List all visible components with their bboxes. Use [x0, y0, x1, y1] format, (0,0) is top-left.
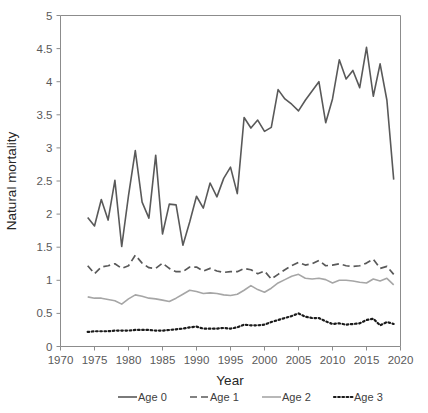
- y-tick-label: 4: [46, 76, 53, 88]
- y-tick-label: 0.5: [37, 307, 53, 319]
- x-tick-label: 1980: [116, 354, 142, 366]
- y-axis-title: Natural mortality: [4, 132, 19, 231]
- y-tick-label: 2: [46, 208, 52, 220]
- x-tick-label: 2000: [252, 354, 278, 366]
- y-tick-label: 1: [46, 274, 52, 286]
- chart-svg: 00.511.522.533.544.55 197019751980198519…: [0, 0, 428, 413]
- x-tick-label: 2010: [320, 354, 346, 366]
- legend-label: Age 0: [138, 391, 167, 403]
- x-axis-tick-labels: 1970197519801985199019952000200520102015…: [48, 354, 414, 366]
- x-tick-label: 2015: [354, 354, 380, 366]
- x-tick-label: 2020: [388, 354, 414, 366]
- legend-label: Age 1: [210, 391, 239, 403]
- x-tick-label: 2005: [286, 354, 312, 366]
- y-tick-label: 0: [46, 341, 52, 353]
- y-tick-label: 1.5: [37, 241, 53, 253]
- x-tick-label: 1975: [82, 354, 108, 366]
- legend-label: Age 2: [282, 391, 311, 403]
- x-tick-label: 1995: [218, 354, 244, 366]
- chart-figure: 00.511.522.533.544.55 197019751980198519…: [0, 0, 428, 413]
- x-tick-label: 1985: [150, 354, 176, 366]
- y-tick-label: 3.5: [37, 109, 53, 121]
- x-tick-label: 1970: [48, 354, 74, 366]
- y-tick-label: 5: [46, 10, 52, 22]
- x-tick-label: 1990: [184, 354, 210, 366]
- y-tick-label: 4.5: [37, 43, 53, 55]
- y-tick-label: 3: [46, 142, 52, 154]
- x-axis-title: Year: [216, 373, 244, 388]
- legend-label: Age 3: [354, 391, 383, 403]
- y-tick-label: 2.5: [37, 175, 53, 187]
